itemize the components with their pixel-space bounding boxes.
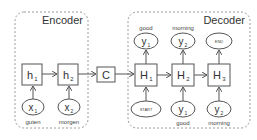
- decoder-title: Decoder: [203, 14, 245, 26]
- token-morgen: morgen: [59, 119, 79, 125]
- svg-text:START: START: [140, 107, 153, 112]
- seq2seq-diagram: Encoder Decoder h 1 h 2 x 1 guten x 2 mo…: [0, 0, 257, 140]
- svg-text:y: y: [142, 36, 147, 47]
- svg-text:1: 1: [35, 108, 38, 114]
- decoder-output-end: END: [206, 33, 232, 49]
- decoder-input-y2: y 2: [207, 101, 231, 117]
- decoder-hidden-H3: H 3: [208, 64, 230, 86]
- encoder-input-x2: x 2: [58, 99, 80, 115]
- svg-text:C: C: [102, 69, 110, 81]
- encoder-hidden-h1: h 1: [22, 64, 42, 85]
- svg-text:y: y: [179, 36, 184, 47]
- svg-text:y: y: [179, 104, 184, 115]
- svg-text:y: y: [215, 104, 220, 115]
- svg-text:h: h: [27, 69, 33, 81]
- context-vector-c: C: [97, 67, 115, 82]
- svg-text:2: 2: [185, 42, 188, 48]
- encoder-input-x1: x 1: [22, 99, 44, 115]
- token-good-out: good: [139, 25, 152, 31]
- svg-text:H: H: [177, 69, 185, 81]
- decoder-input-start: START: [131, 101, 161, 117]
- svg-text:x: x: [65, 102, 70, 113]
- svg-text:H: H: [140, 69, 148, 81]
- svg-text:x: x: [29, 102, 34, 113]
- token-guten: guten: [25, 119, 40, 125]
- token-good-in: good: [176, 120, 189, 126]
- encoder-hidden-h2: h 2: [58, 64, 78, 85]
- decoder-output-y2: y 2: [171, 33, 195, 49]
- decoder-hidden-H1: H 1: [135, 64, 157, 86]
- svg-text:1: 1: [185, 110, 188, 116]
- svg-text:H: H: [213, 69, 221, 81]
- svg-text:1: 1: [148, 42, 151, 48]
- decoder-hidden-H2: H 2: [172, 64, 194, 86]
- svg-text:2: 2: [221, 110, 224, 116]
- decoder-input-y1: y 1: [171, 101, 195, 117]
- svg-text:h: h: [63, 69, 69, 81]
- decoder-output-y1: y 1: [134, 33, 158, 49]
- svg-text:2: 2: [71, 108, 74, 114]
- svg-text:END: END: [215, 39, 224, 44]
- token-morning-in: morning: [208, 120, 230, 126]
- encoder-title: Encoder: [42, 14, 83, 26]
- token-morning-out: morning: [172, 25, 194, 31]
